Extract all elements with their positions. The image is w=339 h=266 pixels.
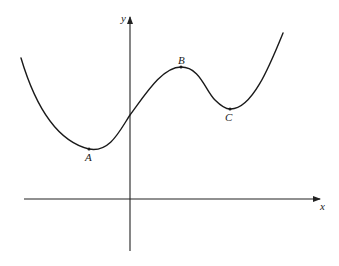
point-b-label: B — [178, 54, 185, 66]
function-curve — [21, 33, 283, 149]
y-axis-label: y — [120, 12, 126, 24]
function-graph: y x A B C — [0, 0, 339, 266]
point-c-label: C — [225, 111, 233, 123]
x-axis-label: x — [319, 200, 325, 212]
point-a-label: A — [84, 151, 92, 163]
